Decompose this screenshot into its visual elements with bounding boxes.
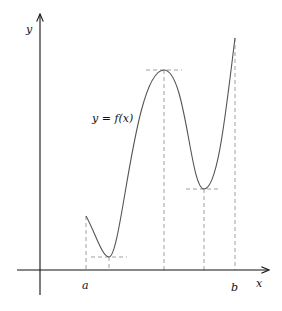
- b-label: b: [231, 281, 238, 294]
- x-axis-label: x: [256, 277, 263, 290]
- dashed-guides: [86, 38, 235, 270]
- a-label: a: [82, 279, 89, 292]
- function-curve: [86, 38, 235, 257]
- y-axis-label: y: [25, 23, 33, 36]
- function-graph: y x y = f(x) a b: [0, 0, 282, 311]
- function-label: y = f(x): [91, 112, 133, 125]
